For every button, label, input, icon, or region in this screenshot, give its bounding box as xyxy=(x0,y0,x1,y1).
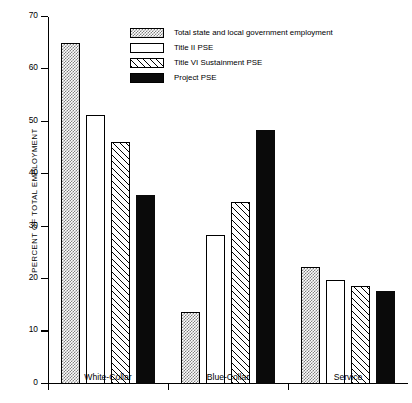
chart-legend: Total state and local government employm… xyxy=(130,26,366,86)
legend-item: Total state and local government employm… xyxy=(130,26,366,40)
legend-swatch-icon xyxy=(130,43,164,54)
bar-chart: PERCENT OF TOTAL EMPLOYMENT 010203040506… xyxy=(0,0,412,403)
x-axis-group-label: Blue-Collar xyxy=(168,372,288,382)
bar xyxy=(61,43,81,384)
y-axis-tick: 50 xyxy=(41,121,48,122)
legend-label: Title II PSE xyxy=(174,43,213,53)
legend-item: Project PSE xyxy=(130,71,366,85)
legend-swatch-icon xyxy=(130,28,164,39)
y-axis-tick-label: 40 xyxy=(29,167,38,178)
y-axis-tick: 20 xyxy=(41,278,48,279)
x-axis-tick xyxy=(48,384,49,390)
y-axis-tick-label: 10 xyxy=(29,324,38,335)
bar xyxy=(136,195,156,384)
legend-label: Title VI Sustainment PSE xyxy=(174,58,262,68)
y-axis-tick-label: 0 xyxy=(33,377,38,388)
y-axis-line xyxy=(48,17,49,384)
y-axis-tick-label: 60 xyxy=(29,62,38,73)
legend-label: Total state and local government employm… xyxy=(174,28,333,38)
y-axis-tick: 10 xyxy=(41,330,48,331)
legend-swatch-icon xyxy=(130,58,164,69)
y-axis-tick-label: 30 xyxy=(29,220,38,231)
bar xyxy=(376,291,396,384)
bar xyxy=(111,142,131,384)
x-axis-group-label: Service xyxy=(288,372,408,382)
y-axis-tick: 60 xyxy=(41,68,48,69)
bar xyxy=(206,235,226,384)
y-axis-tick-label: 70 xyxy=(29,10,38,21)
y-axis-tick: 70 xyxy=(41,16,48,17)
y-axis-tick-label: 50 xyxy=(29,115,38,126)
bar xyxy=(231,202,251,384)
x-axis-tick xyxy=(168,384,169,390)
bar xyxy=(301,267,321,384)
legend-label: Project PSE xyxy=(174,73,217,83)
bar xyxy=(86,115,106,384)
y-axis-tick: 40 xyxy=(41,173,48,174)
x-axis-tick xyxy=(288,384,289,390)
legend-swatch-icon xyxy=(130,73,164,84)
y-axis-tick: 0 xyxy=(41,383,48,384)
bar xyxy=(326,280,346,384)
x-axis-group-label: White-Collar xyxy=(48,372,168,382)
bar xyxy=(351,286,371,384)
y-axis-tick-label: 20 xyxy=(29,272,38,283)
legend-item: Title VI Sustainment PSE xyxy=(130,56,366,70)
legend-item: Title II PSE xyxy=(130,41,366,55)
y-axis-tick: 30 xyxy=(41,226,48,227)
bar xyxy=(256,130,276,384)
